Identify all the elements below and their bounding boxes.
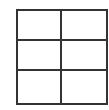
empty-table-grid	[16, 9, 108, 105]
table-cell[interactable]	[18, 41, 62, 71]
table-cell[interactable]	[62, 11, 106, 41]
table-cell[interactable]	[18, 11, 62, 41]
table-cell[interactable]	[62, 71, 106, 103]
table-cell[interactable]	[62, 41, 106, 71]
table-cell[interactable]	[18, 71, 62, 103]
